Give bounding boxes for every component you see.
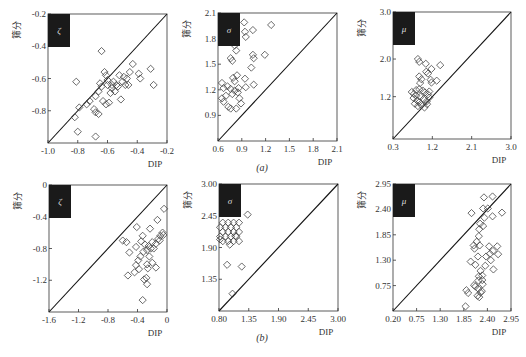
x-tick-label: 1.5 bbox=[284, 144, 296, 154]
x-tick-label: -1.6 bbox=[42, 315, 57, 325]
row-label-b: (b) bbox=[256, 332, 268, 344]
x-tick-label: 2.1 bbox=[331, 144, 342, 154]
x-tick-label: 1.2 bbox=[427, 142, 438, 152]
y-tick-label: 3.0 bbox=[380, 7, 392, 17]
y-axis-label: 筛分 bbox=[182, 191, 193, 209]
x-tick-label: 3.00 bbox=[330, 314, 346, 324]
y-tick-label: 1.5 bbox=[205, 59, 217, 69]
y-tick-label: -0.4 bbox=[32, 41, 47, 51]
y-tick-label: 1.30 bbox=[375, 255, 391, 265]
x-tick-label: -0.4 bbox=[130, 146, 145, 156]
y-tick-label: -0.4 bbox=[33, 212, 48, 222]
x-tick-label: 1.35 bbox=[241, 314, 257, 324]
x-tick-label: 2.40 bbox=[480, 314, 496, 324]
y-axis-label: 筛分 bbox=[12, 192, 23, 210]
x-tick-label: 2.45 bbox=[300, 314, 316, 324]
x-tick-label: -0.6 bbox=[100, 146, 115, 156]
scatter-panel-b-3: 0.200.751.301.852.402.952.952.401.851.30… bbox=[356, 179, 519, 337]
y-tick-label: 2.40 bbox=[375, 204, 391, 214]
x-tick-label: 2.1 bbox=[466, 142, 477, 152]
parameter-symbol: μ bbox=[401, 24, 407, 34]
x-tick-label: 0.6 bbox=[212, 144, 224, 154]
x-tick-label: -0.8 bbox=[101, 315, 116, 325]
x-tick-label: 1.2 bbox=[260, 144, 271, 154]
y-tick-label: 2.95 bbox=[375, 179, 391, 189]
x-tick-label: 1.90 bbox=[271, 314, 287, 324]
x-tick-label: 0.80 bbox=[211, 314, 227, 324]
y-tick-label: -0.2 bbox=[32, 9, 46, 19]
scatter-panel-a-2: 0.60.91.21.51.82.12.11.81.51.20.9DIP筛分σ bbox=[181, 8, 343, 167]
y-tick-label: 1.35 bbox=[201, 274, 217, 284]
y-tick-label: 1.90 bbox=[201, 243, 217, 253]
row-label-a: (a) bbox=[256, 162, 268, 174]
y-axis-label: 筛分 bbox=[181, 20, 192, 38]
x-tick-label: 0.75 bbox=[409, 314, 425, 324]
x-tick-label: -1.2 bbox=[71, 315, 85, 325]
y-tick-label: 0.75 bbox=[375, 281, 391, 291]
parameter-symbol: σ bbox=[228, 196, 233, 206]
x-axis-label: DIP bbox=[318, 157, 333, 167]
y-tick-label: 1.85 bbox=[375, 230, 391, 240]
x-tick-label: 0 bbox=[165, 315, 170, 325]
y-tick-label: 2.1 bbox=[205, 8, 216, 18]
scatter-panel-a-3: 0.31.22.13.03.02.01.2DIP筛分μ bbox=[356, 7, 517, 165]
y-axis-label: 筛分 bbox=[11, 21, 22, 39]
x-tick-label: 2.95 bbox=[503, 314, 519, 324]
y-tick-label: 0.9 bbox=[205, 110, 217, 120]
x-tick-label: 0.9 bbox=[236, 144, 248, 154]
scatter-panel-b-1: -1.6-1.2-0.8-0.400-0.4-0.8-1.2DIP筛分ζ bbox=[12, 180, 170, 338]
x-tick-label: -1.0 bbox=[41, 146, 56, 156]
parameter-symbol: σ bbox=[227, 25, 232, 35]
y-tick-label: 0 bbox=[43, 180, 48, 190]
y-axis-label: 筛分 bbox=[356, 191, 367, 209]
y-tick-label: -0.8 bbox=[33, 244, 48, 254]
scatter-panel-a-1: -1.0-0.8-0.6-0.4-0.2-0.2-0.4-0.6-0.8DIP筛… bbox=[11, 9, 174, 169]
x-tick-label: -0.4 bbox=[130, 315, 145, 325]
figure: -1.0-0.8-0.6-0.4-0.2-0.2-0.4-0.6-0.8DIP筛… bbox=[0, 0, 526, 357]
y-tick-label: 1.2 bbox=[380, 92, 391, 102]
x-tick-label: 0.3 bbox=[387, 142, 399, 152]
y-tick-label: 1.8 bbox=[205, 34, 217, 44]
y-tick-label: 3.00 bbox=[201, 179, 217, 189]
x-axis-label: DIP bbox=[148, 159, 163, 169]
x-axis-label: DIP bbox=[492, 155, 507, 165]
x-tick-label: 1.30 bbox=[432, 314, 448, 324]
scatter-figure: -1.0-0.8-0.6-0.4-0.2-0.2-0.4-0.6-0.8DIP筛… bbox=[0, 0, 526, 357]
x-tick-label: -0.2 bbox=[160, 146, 174, 156]
scatter-panel-b-2: 0.801.351.902.453.003.002.451.901.35DIP筛… bbox=[182, 179, 346, 337]
x-tick-label: 1.8 bbox=[308, 144, 320, 154]
parameter-symbol: μ bbox=[401, 196, 407, 206]
x-tick-label: 3.0 bbox=[505, 142, 517, 152]
y-tick-label: -1.2 bbox=[33, 275, 47, 285]
x-axis-label: DIP bbox=[148, 328, 163, 338]
y-axis-label: 筛分 bbox=[356, 19, 367, 37]
y-tick-label: 2.0 bbox=[380, 54, 392, 64]
x-tick-label: -0.8 bbox=[71, 146, 86, 156]
x-tick-label: 0.20 bbox=[385, 314, 401, 324]
y-tick-label: -0.8 bbox=[32, 106, 47, 116]
y-tick-label: -0.6 bbox=[32, 74, 47, 84]
y-tick-label: 2.45 bbox=[201, 211, 217, 221]
x-axis-label: DIP bbox=[319, 327, 334, 337]
x-axis-label: DIP bbox=[492, 327, 507, 337]
y-tick-label: 1.2 bbox=[205, 85, 216, 95]
x-tick-label: 1.85 bbox=[456, 314, 472, 324]
